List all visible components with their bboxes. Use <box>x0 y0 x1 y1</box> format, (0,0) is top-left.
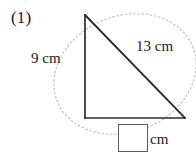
triangle-hypotenuse <box>85 15 185 118</box>
problem-figure-page: (1) 9 cm 13 cm cm <box>0 0 196 155</box>
answer-input-box[interactable] <box>118 124 148 152</box>
hypotenuse-length-label: 13 cm <box>136 39 173 54</box>
answer-unit-label: cm <box>150 132 168 147</box>
problem-number: (1) <box>11 9 31 26</box>
dotted-enclosing-arc <box>36 0 196 155</box>
left-side-length-label: 9 cm <box>31 51 61 66</box>
